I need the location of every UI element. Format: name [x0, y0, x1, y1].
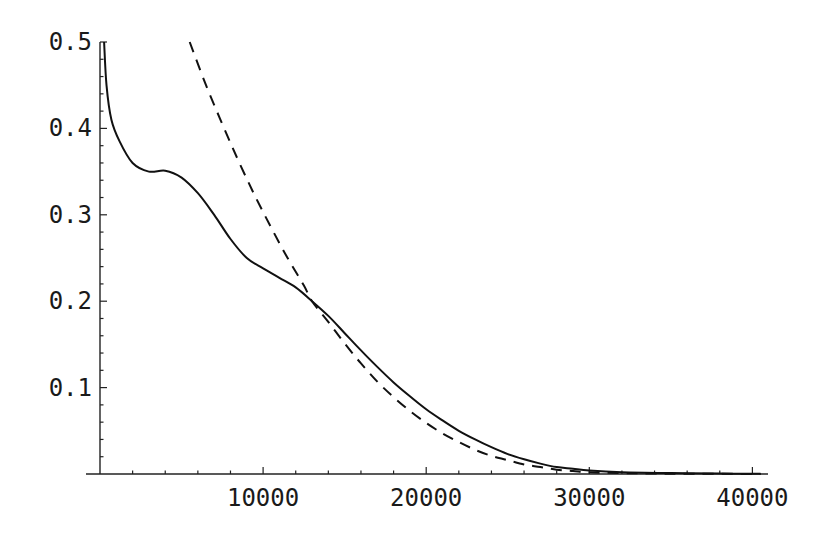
series-solid-line [104, 42, 761, 474]
series-group [104, 42, 761, 474]
x-tick-label: 30000 [553, 484, 625, 512]
x-tick-label: 20000 [390, 484, 462, 512]
y-tick-label: 0.1 [49, 374, 92, 402]
tick-labels: 100002000030000400000.10.20.30.40.5 [49, 28, 789, 512]
x-tick-label: 10000 [227, 484, 299, 512]
y-tick-label: 0.3 [49, 201, 92, 229]
x-tick-label: 40000 [716, 484, 788, 512]
y-tick-label: 0.2 [49, 287, 92, 315]
line-chart: 100002000030000400000.10.20.30.40.5 [0, 0, 834, 541]
y-tick-label: 0.5 [49, 28, 92, 56]
y-tick-label: 0.4 [49, 114, 92, 142]
series-dashed-line [190, 42, 761, 474]
